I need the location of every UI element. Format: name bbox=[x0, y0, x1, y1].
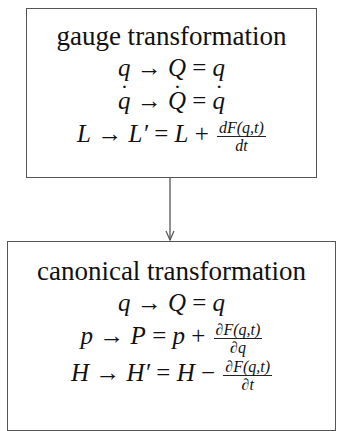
eq-rhs: q bbox=[213, 289, 226, 316]
arrow-symbol: → bbox=[137, 289, 162, 316]
equals-symbol: = bbox=[154, 120, 168, 147]
arrow-symbol: → bbox=[97, 120, 122, 147]
gauge-eq-q: q → Q = q bbox=[27, 51, 316, 84]
gauge-eq-L: L → L′ = L + dF(q,t) dt bbox=[27, 117, 316, 154]
arrow-symbol: → bbox=[137, 54, 162, 81]
down-arrow-connector bbox=[165, 178, 177, 241]
equals-symbol: = bbox=[192, 289, 206, 316]
gauge-transformation-box: gauge transformation q → Q = q q → Q = q… bbox=[26, 8, 317, 178]
eq-mid: Q bbox=[168, 84, 186, 117]
eq-mid: L′ bbox=[129, 120, 148, 147]
fraction-denominator: ∂q bbox=[214, 339, 263, 356]
fraction: dF(q,t) dt bbox=[217, 119, 266, 154]
eq-rhs: q bbox=[213, 84, 226, 117]
fraction-denominator: dt bbox=[217, 137, 266, 154]
arrow-symbol: → bbox=[99, 322, 124, 349]
gauge-eq-qdot: q → Q = q bbox=[27, 84, 316, 117]
eq-mid: Q bbox=[168, 289, 186, 316]
eq-lhs: q bbox=[118, 289, 131, 316]
eq-lhs: H bbox=[71, 359, 89, 386]
eq-rhs: L bbox=[175, 120, 189, 147]
fraction: ∂F(q,t) ∂t bbox=[223, 358, 272, 393]
equals-symbol: = bbox=[192, 87, 206, 114]
fraction-numerator: ∂F(q,t) bbox=[214, 321, 263, 339]
fraction-numerator: dF(q,t) bbox=[217, 119, 266, 137]
canonical-transformation-box: canonical transformation q → Q = q p → P… bbox=[7, 241, 336, 431]
eq-mid: H′ bbox=[126, 359, 150, 386]
fraction-numerator: ∂F(q,t) bbox=[223, 358, 272, 376]
eq-rhs: H bbox=[177, 359, 195, 386]
arrow-symbol: → bbox=[95, 359, 120, 386]
eq-lhs: L bbox=[77, 120, 91, 147]
canonical-eq-p: p → P = p + ∂F(q,t) ∂q bbox=[8, 319, 335, 356]
eq-lhs: q bbox=[118, 84, 131, 117]
gauge-title: gauge transformation bbox=[27, 21, 316, 51]
equals-symbol: = bbox=[152, 322, 166, 349]
fraction-denominator: ∂t bbox=[223, 376, 272, 393]
plus-symbol: + bbox=[191, 322, 205, 349]
canonical-title: canonical transformation bbox=[8, 256, 335, 286]
plus-symbol: + bbox=[195, 120, 209, 147]
canonical-eq-H: H → H′ = H − ∂F(q,t) ∂t bbox=[8, 356, 335, 393]
minus-symbol: − bbox=[201, 359, 215, 386]
eq-lhs: p bbox=[81, 322, 94, 349]
eq-mid: P bbox=[131, 322, 146, 349]
equals-symbol: = bbox=[156, 359, 170, 386]
fraction: ∂F(q,t) ∂q bbox=[214, 321, 263, 356]
eq-rhs: p bbox=[173, 322, 186, 349]
canonical-eq-q: q → Q = q bbox=[8, 286, 335, 319]
equals-symbol: = bbox=[192, 54, 206, 81]
arrow-symbol: → bbox=[137, 87, 162, 114]
